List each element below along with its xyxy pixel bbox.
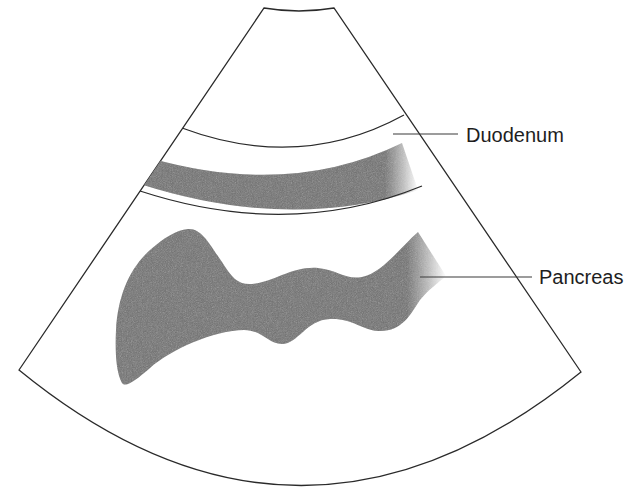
duodenum-band: [140, 143, 418, 210]
pancreas-label: Pancreas: [539, 266, 624, 288]
ultrasound-diagram: Duodenum Pancreas: [0, 0, 642, 492]
pancreas-shape: [116, 229, 446, 385]
duodenum-label: Duodenum: [466, 124, 564, 146]
ultrasound-sector-outline: [19, 8, 581, 486]
duodenum-upper-wall: [182, 115, 404, 147]
